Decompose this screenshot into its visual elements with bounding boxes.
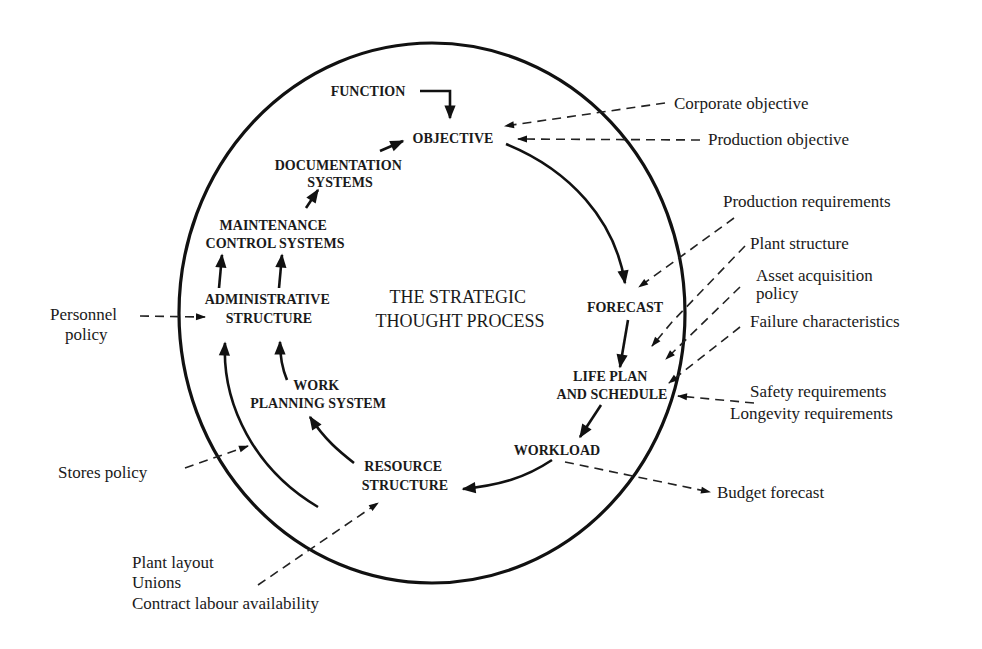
diagram-title: THE STRATEGIC THOUGHT PROCESS	[375, 287, 544, 331]
node-objective: OBJECTIVE	[413, 131, 494, 146]
dash-production-objective	[518, 139, 700, 140]
node-work-planning: WORK PLANNING SYSTEM	[250, 378, 386, 411]
dash-safety-longevity	[678, 396, 754, 403]
label-stores-policy-text: Stores policy	[58, 463, 148, 482]
node-administrative-line-2: STRUCTURE	[226, 311, 312, 326]
strategic-thought-process-diagram: THE STRATEGIC THOUGHT PROCESS FUNCTION O…	[0, 0, 982, 649]
label-unions: Unions	[132, 573, 181, 592]
label-safety-longevity: Safety requirements Longevity requiremen…	[730, 382, 893, 423]
arrow-function-to-objective	[420, 91, 450, 118]
dash-corporate-objective	[505, 103, 665, 126]
dash-asset-acquisition	[666, 287, 740, 359]
arrow-maintenance-to-documentation	[306, 190, 318, 208]
label-corporate-objective: Corporate objective	[674, 94, 809, 113]
node-maintenance-line-2: CONTROL SYSTEMS	[206, 236, 345, 251]
node-function: FUNCTION	[331, 84, 406, 99]
dash-personnel-policy	[140, 316, 205, 317]
node-function-label: FUNCTION	[331, 84, 406, 99]
label-plant-layout-group: Plant layout Unions Contract labour avai…	[132, 553, 319, 613]
node-documentation-line-1: DOCUMENTATION	[275, 158, 402, 173]
label-plant-structure-text: Plant structure	[750, 234, 849, 253]
label-production-requirements-text: Production requirements	[723, 192, 891, 211]
label-production-objective-text: Production objective	[708, 130, 849, 149]
arrow-lifeplan-to-workload	[580, 405, 601, 437]
title-line-2: THOUGHT PROCESS	[375, 311, 544, 331]
label-personnel-line-2: policy	[65, 325, 108, 344]
arrow-documentation-to-objective	[380, 141, 403, 151]
node-lifeplan-line-1: LIFE PLAN	[573, 369, 647, 384]
arrow-resource-to-administrative-outer	[225, 343, 318, 507]
dash-budget-forecast	[565, 462, 710, 492]
label-budget-forecast: Budget forecast	[717, 483, 824, 502]
node-documentation-line-2: SYSTEMS	[307, 175, 373, 190]
label-longevity-requirements: Longevity requirements	[730, 404, 893, 423]
label-plant-layout: Plant layout	[132, 553, 214, 572]
label-asset-acquisition-line-2: policy	[756, 284, 799, 303]
label-production-requirements: Production requirements	[723, 192, 891, 211]
node-lifeplan-line-2: AND SCHEDULE	[557, 387, 668, 402]
label-stores-policy: Stores policy	[58, 463, 148, 482]
node-workload: WORKLOAD	[514, 443, 600, 458]
node-workplanning-line-2: PLANNING SYSTEM	[250, 396, 386, 411]
label-personnel-policy: Personnel policy	[50, 305, 121, 344]
node-resource-line-1: RESOURCE	[364, 459, 442, 474]
arrow-workload-to-resource	[463, 460, 552, 489]
arrow-objective-to-forecast	[506, 144, 625, 283]
dash-stores-policy	[185, 446, 248, 468]
node-forecast: FORECAST	[587, 300, 664, 315]
label-production-objective: Production objective	[708, 130, 849, 149]
label-corporate-objective-text: Corporate objective	[674, 94, 809, 113]
label-personnel-line-1: Personnel	[50, 305, 117, 324]
node-administrative: ADMINISTRATIVE STRUCTURE	[205, 292, 333, 326]
label-contract-labour: Contract labour availability	[132, 594, 319, 613]
node-maintenance-line-1: MAINTENANCE	[220, 218, 327, 233]
label-budget-forecast-text: Budget forecast	[717, 483, 824, 502]
node-resource-line-2: STRUCTURE	[362, 478, 448, 493]
node-workplanning-line-1: WORK	[293, 378, 339, 393]
arrow-resource-to-workplanning	[310, 417, 354, 463]
dash-production-requirements	[639, 218, 734, 287]
node-maintenance-control: MAINTENANCE CONTROL SYSTEMS	[206, 218, 345, 251]
node-administrative-line-1: ADMINISTRATIVE	[205, 292, 330, 307]
node-objective-label: OBJECTIVE	[413, 131, 494, 146]
label-plant-structure: Plant structure	[750, 234, 849, 253]
arrow-administrative-to-maintenance-left	[219, 255, 222, 288]
dash-plant-structure	[652, 246, 745, 346]
node-life-plan: LIFE PLAN AND SCHEDULE	[557, 369, 668, 402]
node-documentation: DOCUMENTATION SYSTEMS	[275, 158, 406, 190]
label-asset-acquisition: Asset acquisition policy	[756, 266, 877, 303]
label-safety-requirements: Safety requirements	[750, 382, 886, 401]
label-asset-acquisition-line-1: Asset acquisition	[756, 266, 873, 285]
arrow-workplanning-to-administrative	[280, 342, 287, 380]
dash-failure-characteristics	[669, 327, 740, 383]
label-failure-characteristics: Failure characteristics	[750, 312, 900, 331]
title-line-1: THE STRATEGIC	[390, 287, 527, 307]
node-resource-structure: RESOURCE STRUCTURE	[362, 459, 448, 493]
arrow-administrative-to-maintenance-right	[279, 255, 282, 288]
node-workload-label: WORKLOAD	[514, 443, 600, 458]
label-failure-characteristics-text: Failure characteristics	[750, 312, 900, 331]
node-forecast-label: FORECAST	[587, 300, 664, 315]
arrow-forecast-to-lifeplan	[620, 320, 628, 367]
